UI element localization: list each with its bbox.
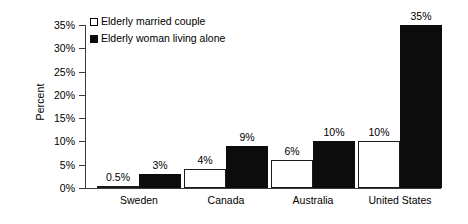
bar	[313, 141, 355, 188]
bar-value-label: 9%	[217, 132, 277, 143]
y-axis-tick-label: 30%	[31, 43, 75, 54]
y-axis-tick-label: 15%	[31, 113, 75, 124]
x-axis-category-label: United States	[343, 194, 457, 206]
y-axis-tick-label: 20%	[31, 90, 75, 101]
y-axis-tick-label: 0%	[31, 183, 75, 194]
bar	[400, 25, 442, 188]
bar	[184, 169, 226, 188]
bar	[271, 160, 313, 188]
bar-chart: Percent 0%5%10%15%20%25%30%35% Elderly m…	[0, 0, 468, 224]
x-axis-line	[85, 188, 441, 189]
bar	[358, 141, 400, 188]
y-axis-tick-label: 25%	[31, 67, 75, 78]
bar	[139, 174, 181, 188]
bar	[97, 186, 139, 188]
y-axis-tick-label: 5%	[31, 160, 75, 171]
plot-area: 0.5%3%4%9%6%10%10%35%	[85, 25, 440, 188]
bar-value-label: 35%	[391, 11, 451, 22]
y-axis-tick-label: 10%	[31, 136, 75, 147]
y-axis-tick-label: 35%	[31, 20, 75, 31]
